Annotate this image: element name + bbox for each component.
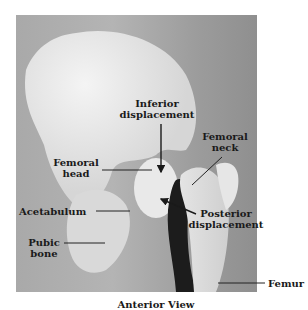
annotation-arrows [0, 0, 308, 310]
label-text: Femoral [198, 131, 252, 142]
label-text: Posterior [184, 208, 268, 219]
label-femur: Femur [268, 278, 304, 289]
label-acetabulum: Acetabulum [19, 206, 86, 217]
label-posterior-displacement: Posterior displacement [184, 208, 268, 230]
label-text: Femur [268, 278, 304, 289]
label-text: Femoral [50, 157, 102, 168]
label-text: neck [198, 142, 252, 153]
view-caption: Anterior View [96, 299, 216, 310]
label-pubic-bone: Pubic bone [24, 237, 64, 259]
label-text: displacement [184, 219, 268, 230]
label-text: head [50, 168, 102, 179]
label-femoral-head: Femoral head [50, 157, 102, 179]
label-text: bone [24, 248, 64, 259]
label-femoral-neck: Femoral neck [198, 131, 252, 153]
femoral-neck-line [192, 157, 222, 185]
label-text: Acetabulum [19, 206, 86, 217]
hip-dislocation-figure: Inferior displacement Femoral neck Femor… [0, 0, 308, 310]
label-text: Pubic [24, 237, 64, 248]
